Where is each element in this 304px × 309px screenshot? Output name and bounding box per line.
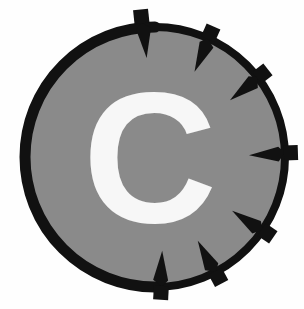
letter-c: C <box>83 54 217 261</box>
arrow-right-tail <box>284 145 299 160</box>
figure-root: C <box>0 0 304 309</box>
arrow-top-tail <box>133 9 149 24</box>
arrow-bottom-tail <box>153 285 169 300</box>
circle-arrows-figure: C <box>0 0 304 309</box>
